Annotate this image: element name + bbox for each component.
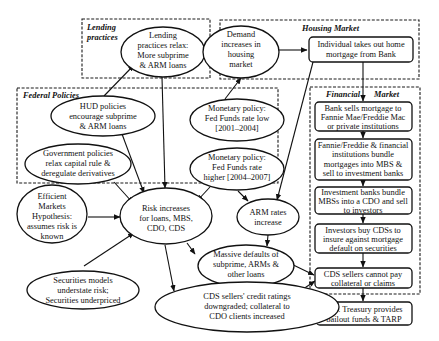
node-text: Investment banks bundle <box>321 188 405 197</box>
node-text: Fed Funds rate low <box>205 114 270 123</box>
node-text: Securities models <box>53 276 112 285</box>
node-text: Efficient <box>37 192 67 201</box>
node-securities-models: Securities models understate risk; Secur… <box>27 271 139 309</box>
node-massive-defaults: Massive defaults of subprime, ARMs & oth… <box>198 245 294 287</box>
node-text: assumes risk is <box>27 222 77 231</box>
node-text: Individual takes out home <box>317 40 405 49</box>
group-label-federal: Federal Policies <box>22 91 79 100</box>
node-text: other loans <box>228 270 265 279</box>
node-text: Government policies <box>43 149 113 158</box>
node-text: practices relax: <box>138 41 189 50</box>
node-text: More subprime <box>137 51 189 60</box>
node-text: CDS sellers' credit ratings <box>203 292 290 301</box>
node-individual-mortgage: Individual takes out home mortgage from … <box>309 37 413 62</box>
node-text: known <box>41 232 65 241</box>
node-text: housing <box>228 50 255 59</box>
edge-individual-arm <box>277 62 313 200</box>
node-text: CDO, CDS <box>147 224 186 233</box>
edge-hud-lending <box>104 65 134 96</box>
edge-arm-defaults <box>267 235 268 246</box>
node-text: deregulate derivatives <box>41 169 115 178</box>
node-text: collateral or claims <box>331 279 395 288</box>
node-text: downgraded; collateral to <box>204 302 290 311</box>
node-text: Securities underpriced <box>45 296 121 305</box>
node-text: encourage subprime <box>69 112 137 121</box>
node-text: understate risk; <box>57 286 108 295</box>
node-text: mortgage from Bank <box>326 50 397 59</box>
group-label-lending-2: practices <box>86 33 118 42</box>
node-text: & ARM loans <box>80 122 127 131</box>
node-text: MBSs into a CDO and sell <box>318 197 408 206</box>
node-text: market <box>229 60 253 69</box>
edge-lending-risk <box>162 77 165 188</box>
node-text: relax capital rule & <box>46 159 111 168</box>
node-text: insure against mortgage <box>323 235 403 244</box>
edge-monetaryhigh-arm <box>238 191 248 201</box>
node-text: mortgages into MBS & <box>324 160 403 169</box>
node-government-policies: Government policies relax capital rule &… <box>25 144 131 184</box>
edge-securities-risk <box>84 233 134 266</box>
group-label-lending-1: Lending <box>86 23 116 32</box>
node-risk-increases: Risk increases for loans, MBS, CDO, CDS <box>120 188 212 244</box>
node-investors-buy-cds: Investors buy CDSs to insure against mor… <box>315 224 412 253</box>
node-text: Bank sells mortgage to <box>325 104 402 113</box>
node-text: increase <box>254 218 282 227</box>
node-text: Hypothesis: <box>32 212 72 221</box>
node-text: increases in <box>221 40 261 49</box>
group-label-financial-left: Financial <box>325 90 361 99</box>
node-efficient-markets-hypothesis: Efficient Markets Hypothesis: assumes ri… <box>17 185 87 243</box>
node-text: Monetary policy: <box>208 104 266 113</box>
node-text: higher [2004–2007] <box>204 173 271 182</box>
node-monetary-policy-low: Monetary policy: Fed Funds rate low [200… <box>190 99 284 141</box>
node-arm-rates-increase: ARM rates increase <box>237 199 299 235</box>
node-text: Monetary policy: <box>208 153 266 162</box>
node-text: to investors <box>344 206 383 215</box>
node-text: Investors buy CDSs to <box>325 226 401 235</box>
node-text: Lending <box>149 31 178 40</box>
edge-risk-cdsratings <box>165 245 174 291</box>
node-text: Markets <box>38 202 65 211</box>
node-text: Fannie Mae/Freddie Mac <box>321 113 406 122</box>
node-text: CDS sellers cannot pay <box>324 270 403 279</box>
group-label-housing: Housing Market <box>301 24 360 33</box>
node-text: Fannie/Freddie & financial <box>318 141 409 150</box>
node-text: Massive defaults of <box>213 250 279 259</box>
node-text: & ARM loans <box>140 61 187 70</box>
node-demand-increases: Demand increases in housing market <box>203 26 279 78</box>
group-label-financial-right: Market <box>373 90 400 99</box>
node-cds-credit-ratings-downgraded: CDS sellers' credit ratings downgraded; … <box>155 282 339 332</box>
node-text: HUD policies <box>80 102 126 111</box>
node-text: default on securities <box>329 244 396 253</box>
financial-crisis-causal-diagram: Lending practices Housing Market Federal… <box>0 0 439 341</box>
edge-risk-defaults <box>187 243 195 254</box>
node-text: ARM rates <box>250 208 287 217</box>
node-text: for loans, MBS, <box>139 214 193 223</box>
node-lending-practices-relax: Lending practices relax: More subprime &… <box>121 27 205 77</box>
node-text: CDO clients increased <box>209 312 285 321</box>
node-text: bailout funds & TARP <box>326 315 402 324</box>
node-text: or private institutions <box>327 122 399 131</box>
node-fannie-freddie-bundle: Fannie/Freddie & financial institutions … <box>315 139 412 180</box>
node-cds-sellers-cannot-pay: CDS sellers cannot pay collateral or cla… <box>315 268 412 288</box>
node-investment-banks-cdo: Investment banks bundle MBSs into a CDO … <box>315 187 412 215</box>
node-text: [2001–2004] <box>215 124 258 133</box>
node-text: Risk increases <box>142 204 190 213</box>
node-text: Demand <box>227 30 256 39</box>
node-text: subprime, ARMs & <box>213 260 279 269</box>
node-text: Fed Funds rate <box>212 163 262 172</box>
node-hud-policies: HUD policies encourage subprime & ARM lo… <box>51 96 155 136</box>
node-monetary-policy-higher: Monetary policy: Fed Funds rate higher [… <box>190 148 284 190</box>
node-text: institutions bundle <box>332 150 394 159</box>
node-bank-sells-mortgage: Bank sells mortgage to Fannie Mae/Freddi… <box>315 102 412 131</box>
node-text: sell to investment banks <box>323 169 404 178</box>
